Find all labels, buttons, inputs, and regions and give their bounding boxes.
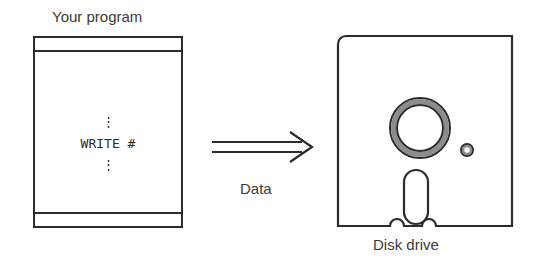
program-label: Your program — [52, 8, 142, 26]
code-ellipsis-below: ⋮ — [35, 159, 181, 170]
flow-label-data: Data — [240, 180, 272, 198]
floppy-disk-drive-icon — [336, 34, 516, 230]
program-listing-bottom-divider — [35, 212, 181, 214]
code-ellipsis-above: ⋮ — [35, 116, 181, 127]
program-listing-box: ⋮ WRITE # ⋮ — [33, 36, 183, 228]
program-listing-top-divider — [35, 50, 181, 52]
diagram-canvas: Your program ⋮ WRITE # ⋮ Data — [0, 0, 545, 265]
disk-head-slot-icon — [404, 170, 428, 224]
double-line-right-arrow-icon — [210, 132, 314, 164]
disk-drive-label: Disk drive — [373, 236, 439, 254]
disk-hub-ring-icon — [390, 98, 450, 158]
code-statement-write: WRITE # — [35, 138, 181, 149]
